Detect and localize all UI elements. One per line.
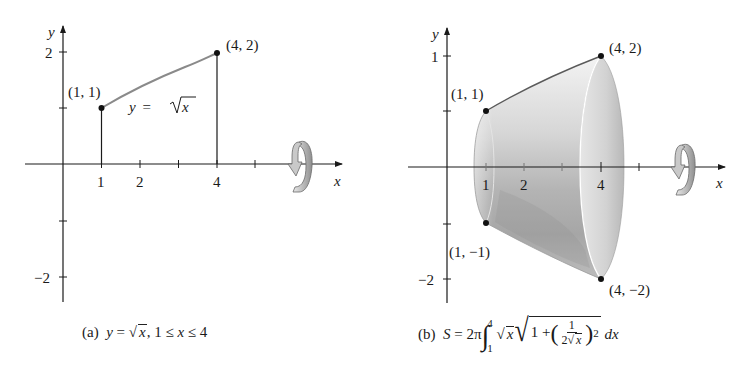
caption-a-tag: (a) (82, 324, 99, 340)
point-1-1 (483, 108, 489, 114)
caption-b-lhs: S (443, 326, 451, 342)
caption-a-eq: = (117, 324, 125, 340)
x-axis-label: x (715, 175, 723, 191)
curve-sqrt-x (102, 53, 218, 108)
x-tick-label-2: 2 (520, 177, 528, 193)
integral-limits: 41 (487, 318, 493, 354)
x-tick-label-4: 4 (597, 177, 605, 193)
x-axis-label: x (333, 173, 341, 189)
caption-b-sqrt-x: √x (496, 326, 514, 342)
caption-a-lhs: y (106, 324, 113, 340)
x-tick-label-2: 2 (136, 174, 144, 190)
y-axis-label: y (430, 26, 439, 42)
x-tick-label-1: 1 (482, 177, 490, 193)
x-tick-label-1: 1 (97, 174, 105, 190)
x-tick-label-4: 4 (213, 174, 221, 190)
point-4-neg2 (598, 276, 604, 282)
y-axis-label: y (46, 24, 55, 40)
point-label-4-2: (4, 2) (226, 37, 259, 54)
point-label-4-2: (4, 2) (609, 40, 642, 57)
caption-b-eq: = 2π (454, 326, 481, 342)
caption-b-tag: (b) (418, 326, 436, 342)
point-4-2 (598, 53, 604, 59)
rotate-about-x-axis-icon (671, 144, 695, 195)
point-label-4-neg2: (4, −2) (609, 282, 650, 299)
y-tick-label-1: 1 (431, 49, 439, 65)
point-1-neg1 (483, 220, 489, 226)
caption-b-dx: dx (605, 326, 619, 342)
y-tick-label-neg2: −2 (34, 270, 50, 286)
point-label-1-neg1: (1, −1) (449, 244, 490, 261)
panel-b-graph: 1 2 4 1 −2 x y (1, 1) (4, 2) (1, −1) (4,… (408, 26, 725, 303)
rotate-about-x-axis-icon (288, 141, 312, 192)
point-label-1-1: (1, 1) (451, 86, 484, 103)
point-label-1-1: (1, 1) (68, 84, 101, 101)
y-tick-label-neg2: −2 (418, 272, 434, 288)
caption-a-range: , 1 ≤ x ≤ 4 (147, 324, 208, 340)
point-4-2 (214, 50, 220, 56)
caption-b-long-sqrt: √1 + (12√x)2 (514, 316, 600, 346)
caption-a-sqrt: √x (129, 324, 147, 340)
curve-label: y = (127, 99, 151, 115)
caption-a: (a) y = √x, 1 ≤ x ≤ 4 (82, 324, 207, 341)
panel-a-graph: 1 2 4 2 −2 x y (1, 1) (4, 2) y = x (25, 24, 342, 302)
curve-label-radicand: x (181, 99, 189, 115)
y-tick-label-2: 2 (45, 45, 53, 61)
point-1-1 (99, 105, 105, 111)
caption-b: (b) S = 2π∫41 √x√1 + (12√x)2 dx (418, 316, 619, 354)
